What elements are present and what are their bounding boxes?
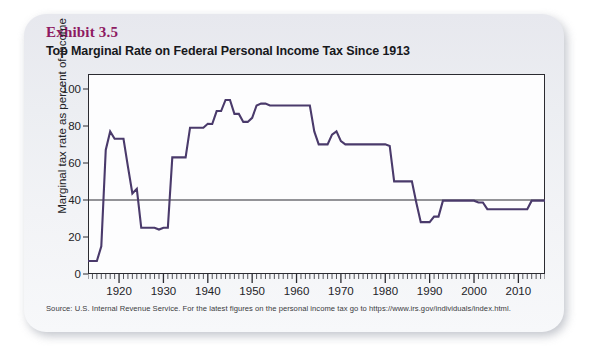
y-tick-mark-20 bbox=[83, 236, 88, 237]
x-tick-marks bbox=[88, 274, 545, 285]
x-tick-label-1950: 1950 bbox=[239, 285, 265, 297]
y-tick-mark-80 bbox=[83, 125, 88, 126]
y-tick-mark-60 bbox=[83, 162, 88, 163]
y-tick-mark-100 bbox=[83, 88, 88, 89]
x-tick-label-2000: 2000 bbox=[461, 285, 487, 297]
y-tick-label-80: 80 bbox=[68, 120, 81, 132]
y-tick-mark-40 bbox=[83, 199, 88, 200]
x-tick-label-1970: 1970 bbox=[328, 285, 354, 297]
chart-svg bbox=[88, 74, 545, 274]
y-tick-label-0: 0 bbox=[75, 268, 81, 280]
plot-area: 020406080100 192019301940195019601970198… bbox=[88, 74, 545, 274]
screenshot-root: Exhibit 3.5 Top Marginal Rate on Federal… bbox=[0, 0, 594, 351]
x-tick-label-1920: 1920 bbox=[106, 285, 132, 297]
y-tick-label-60: 60 bbox=[68, 157, 81, 169]
x-tick-label-1990: 1990 bbox=[417, 285, 443, 297]
source-note: Source: U.S. Internal Revenue Service. F… bbox=[46, 304, 511, 313]
y-axis-title: Marginal tax rate as percent of income bbox=[56, 16, 68, 216]
chart-title: Top Marginal Rate on Federal Personal In… bbox=[46, 44, 410, 58]
x-tick-label-1940: 1940 bbox=[195, 285, 221, 297]
y-tick-label-40: 40 bbox=[68, 194, 81, 206]
x-tick-label-1980: 1980 bbox=[372, 285, 398, 297]
x-axis-tickbar bbox=[88, 274, 545, 285]
y-tick-label-20: 20 bbox=[68, 231, 81, 243]
x-tick-label-1930: 1930 bbox=[151, 285, 177, 297]
y-tick-label-100: 100 bbox=[62, 83, 81, 95]
x-tick-label-2010: 2010 bbox=[506, 285, 532, 297]
x-tick-label-1960: 1960 bbox=[284, 285, 310, 297]
exhibit-card: Exhibit 3.5 Top Marginal Rate on Federal… bbox=[24, 14, 564, 332]
tax-rate-line bbox=[88, 100, 545, 261]
